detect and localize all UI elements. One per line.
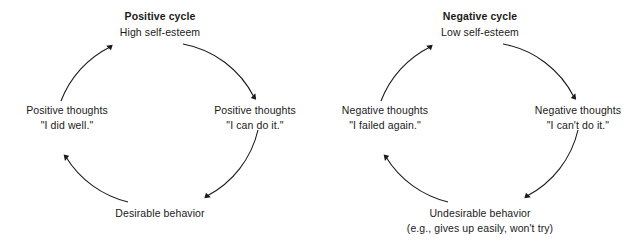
positive-cycle-diagram: Positive cycle High self-esteem Positive… [0,0,320,248]
positive-node-left: Positive thoughts "I did well." [8,103,126,132]
negative-node-bottom-line2: (e.g., gives up easily, won't try) [352,221,608,236]
positive-node-top: High self-esteem [60,25,260,40]
arrow-right-to-bottom [527,130,578,196]
negative-node-bottom: Undesirable behavior (e.g., gives up eas… [352,206,608,235]
negative-node-left-line1: Negative thoughts [342,104,428,116]
arrow-left-to-top [61,47,110,101]
arrow-top-to-right [503,44,574,97]
positive-cycle-title: Positive cycle [60,9,260,24]
positive-node-left-line1: Positive thoughts [26,104,108,116]
negative-node-top-line1: Low self-esteem [441,26,519,38]
negative-node-right: Negative thoughts "I can't do it." [516,103,640,132]
positive-node-bottom-line1: Desirable behavior [115,207,204,219]
arrow-left-to-top [381,47,430,101]
negative-cycle-title: Negative cycle [380,9,580,24]
negative-node-right-line1: Negative thoughts [535,104,621,116]
diagram-canvas: Positive cycle High self-esteem Positive… [0,0,640,248]
arrow-right-to-bottom [207,130,258,196]
positive-node-right-line1: Positive thoughts [214,104,296,116]
arrow-bottom-to-left [386,157,448,202]
positive-node-bottom: Desirable behavior [60,206,260,221]
arrow-top-to-right [183,44,254,97]
positive-node-right-line2: "I can do it." [196,118,314,133]
arrow-bottom-to-left [66,157,128,202]
negative-node-right-line2: "I can't do it." [516,118,640,133]
negative-node-top: Low self-esteem [380,25,580,40]
negative-node-left-line2: "I failed again." [324,118,446,133]
positive-node-right: Positive thoughts "I can do it." [196,103,314,132]
positive-node-left-line2: "I did well." [8,118,126,133]
negative-node-left: Negative thoughts "I failed again." [324,103,446,132]
negative-cycle-diagram: Negative cycle Low self-esteem Negative … [320,0,640,248]
negative-node-bottom-line1: Undesirable behavior [429,207,530,219]
positive-node-top-line1: High self-esteem [120,26,200,38]
